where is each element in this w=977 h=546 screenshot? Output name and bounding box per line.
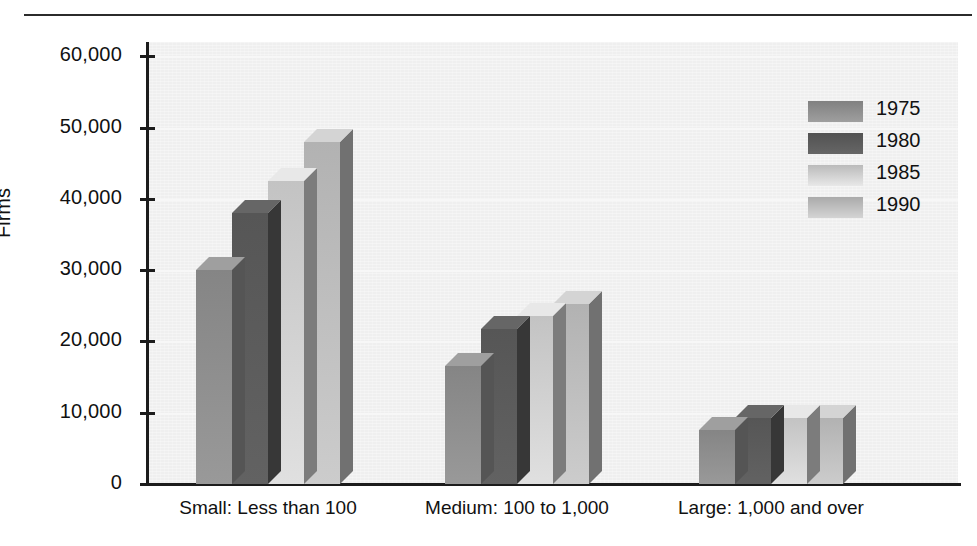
bar-side-face (268, 200, 281, 484)
bar-1975-2 (699, 417, 735, 484)
top-divider-rule (24, 14, 972, 16)
y-tick-mark (140, 55, 155, 58)
bar-side-face (843, 405, 856, 484)
bar-side-face (807, 405, 820, 484)
x-category-label: Small: Less than 100 (128, 497, 408, 519)
legend-label-1975: 1975 (876, 97, 921, 120)
grid-line (148, 128, 958, 130)
bar-front-face (196, 270, 232, 484)
bar-side-face (340, 129, 353, 484)
y-tick-mark (140, 269, 155, 272)
y-tick-label: 50,000 (18, 115, 122, 138)
y-tick-label: 0 (18, 471, 122, 494)
bar-side-face (771, 405, 784, 484)
legend-label-1980: 1980 (876, 129, 921, 152)
bar-front-face (699, 430, 735, 484)
legend-swatch-1980 (808, 133, 863, 154)
bar-side-face (517, 316, 530, 484)
y-tick-label: 40,000 (18, 186, 122, 209)
legend-swatch-1975 (808, 101, 863, 122)
bar-1975-1 (445, 353, 481, 484)
bar-side-face (481, 353, 494, 484)
x-category-label: Medium: 100 to 1,000 (377, 497, 657, 519)
bar-front-face (445, 366, 481, 484)
legend-label-1990: 1990 (876, 193, 921, 216)
bar-side-face (304, 168, 317, 484)
x-category-label: Large: 1,000 and over (631, 497, 911, 519)
y-tick-label: 10,000 (18, 400, 122, 423)
y-axis-line (146, 42, 149, 486)
bar-chart-figure: 010,00020,00030,00040,00050,00060,000 Fi… (0, 0, 977, 546)
legend-swatch-1990 (808, 197, 863, 218)
bar-side-face (553, 303, 566, 484)
y-tick-label: 60,000 (18, 43, 122, 66)
y-tick-mark (140, 127, 155, 130)
y-tick-mark (140, 483, 155, 486)
legend-swatch-1985 (808, 165, 863, 186)
bar-side-face (232, 257, 245, 484)
grid-line (148, 56, 958, 58)
legend-label-1985: 1985 (876, 161, 921, 184)
y-axis-title: Firms (0, 188, 15, 238)
bar-1975-0 (196, 257, 232, 484)
y-tick-label: 20,000 (18, 328, 122, 351)
bar-side-face (589, 291, 602, 484)
y-tick-mark (140, 412, 155, 415)
y-tick-label: 30,000 (18, 257, 122, 280)
y-tick-mark (140, 340, 155, 343)
y-tick-mark (140, 198, 155, 201)
